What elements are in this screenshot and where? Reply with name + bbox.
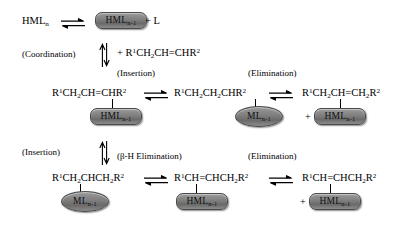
box-label: HMLn-1 [325, 111, 356, 122]
box-label: HMLn-1 [101, 111, 132, 122]
bond-row2-1 [112, 99, 113, 108]
equilibrium-arrow-row3-b [268, 175, 294, 186]
species-hmln: HMLn [22, 16, 49, 28]
label-elimination-row3: (Elimination) [248, 152, 297, 161]
equilibrium-arrow-row1 [60, 18, 86, 29]
reagent-olefin-coordination: + R1CH2CH=CHR2 [117, 48, 200, 60]
plus-row3-3: + [300, 197, 306, 207]
reaction-scheme: HMLn HMLn-1 + L (Coordination) + R1CH2CH… [0, 0, 411, 241]
species-row3-2: R1CH=CHCH2R2 [174, 173, 248, 185]
bond-row2-3 [340, 99, 341, 108]
label-coordination: (Coordination) [22, 50, 76, 59]
species-row2-1: R1CH2CH=CHR2 [52, 88, 126, 100]
box-label: MLn-1 [247, 111, 271, 122]
bond-row3-2 [196, 184, 197, 193]
equilibrium-arrow-row2-a [143, 90, 169, 101]
metal-fragment-box-row3-1: MLn-1 [61, 191, 109, 212]
box-label: HMLn-1 [106, 15, 137, 26]
metal-fragment-box-row3-2: HMLn-1 [176, 193, 228, 210]
equilibrium-arrow-row3-a [143, 175, 169, 186]
box-label: MLn-1 [73, 196, 97, 207]
metal-fragment-box-hmln1-row1: HMLn-1 [95, 12, 147, 29]
metal-fragment-box-row2-3: HMLn-1 [314, 108, 366, 125]
label-beta-h-elimination: (β-H Elimination) [117, 152, 182, 161]
box-label: HMLn-1 [320, 196, 351, 207]
bond-row3-3 [330, 184, 331, 193]
metal-fragment-box-row3-3: HMLn-1 [309, 193, 361, 210]
species-row2-2: R1CH2CH2CHR2 [174, 88, 246, 100]
box-label: HMLn-1 [187, 196, 218, 207]
species-row3-3: R1CH=CHCH2R2 [302, 173, 376, 185]
species-row3-1: R1CH2CHCH2R2 [52, 173, 124, 185]
equilibrium-arrow-row2-b [268, 90, 294, 101]
label-insertion-step: (Insertion) [22, 148, 60, 157]
equilibrium-arrow-coordination [99, 42, 110, 68]
equilibrium-arrow-insertion [99, 140, 110, 166]
metal-fragment-box-row2-1: HMLn-1 [90, 108, 142, 125]
label-elimination-row2: (Elimination) [248, 69, 297, 78]
plus-row2-3: + [305, 112, 311, 122]
ligand-plus-l: + L [145, 16, 160, 27]
metal-fragment-box-row2-2: MLn-1 [235, 106, 283, 127]
label-insertion-row2: (Insertion) [117, 69, 155, 78]
